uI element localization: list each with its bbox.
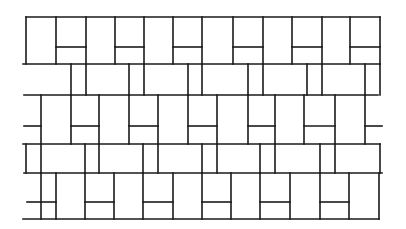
band-1	[26, 17, 380, 64]
band-3	[24, 95, 382, 144]
band-5	[27, 173, 379, 219]
brick-bands	[24, 17, 382, 219]
band-2	[71, 64, 380, 95]
paving-pattern-diagram	[0, 0, 406, 229]
band-4	[26, 144, 380, 173]
